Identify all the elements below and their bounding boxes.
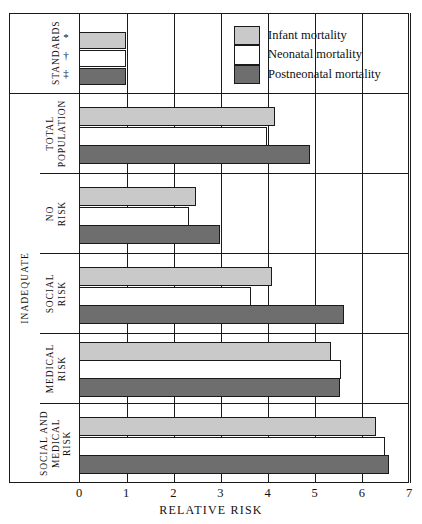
x-tick-label-4: 4 [258,486,278,501]
category-label-medical-risk-text: MEDICAL RISK [46,343,69,393]
legend-label-neonatal-mortality: Neonatal mortality [268,45,362,64]
axis-group-label-inadequate-text: INADEQUATE [20,252,30,324]
bar-social-medical-risk-neonatal-mortality [79,437,385,456]
standards-marker-dagger: † [56,50,76,61]
x-tick-label-7: 7 [399,486,419,501]
bar-standards-neonatal-mortality [79,50,126,67]
bar-no-risk-infant-mortality [79,187,196,206]
x-tick-label-1: 1 [116,486,136,501]
bar-group-total-population [79,93,409,173]
category-label-total-population-text: TOTAL POPULATION [46,99,69,167]
bar-standards-postneonatal-mortality [79,68,126,85]
bar-medical-risk-infant-mortality [79,342,331,361]
bar-standards-infant-mortality [79,32,126,49]
x-tick-label-3: 3 [210,486,230,501]
legend-label-infant-mortality: Infant mortality [268,26,347,45]
x-tick-label-6: 6 [352,486,372,501]
category-label-social-medical-risk-text: SOCIAL AND MEDICAL RISK [40,410,75,475]
bar-medical-risk-postneonatal-mortality [79,378,340,397]
legend-swatch-postneonatal-mortality [234,65,260,84]
x-tick-label-2: 2 [163,486,183,501]
category-label-social-risk-text: SOCIAL RISK [46,273,69,313]
bar-total-population-neonatal-mortality [79,127,267,146]
bar-group-medical-risk [79,333,409,413]
bar-social-medical-risk-infant-mortality [79,417,376,436]
bar-group-social-risk [79,253,409,333]
x-tick-label-0: 0 [69,486,89,501]
legend-swatch-infant-mortality [234,26,260,45]
gridline-7 [410,13,411,483]
bar-no-risk-postneonatal-mortality [79,225,220,244]
bar-no-risk-neonatal-mortality [79,207,189,226]
bar-social-medical-risk-postneonatal-mortality [79,455,389,474]
bar-total-population-infant-mortality [79,107,275,126]
axis-group-label-inadequate: INADEQUATE [9,93,41,483]
legend-label-postneonatal-mortality: Postneonatal mortality [268,65,381,84]
x-axis-title: RELATIVE RISK [0,503,422,518]
bar-medical-risk-neonatal-mortality [79,360,341,379]
bar-group-social-medical-risk [79,403,409,483]
bar-social-risk-neonatal-mortality [79,287,251,306]
bar-social-risk-infant-mortality [79,267,272,286]
bar-group-no-risk [79,173,409,253]
category-label-no-risk-text: NO RISK [46,200,69,225]
legend-swatches [234,26,260,84]
x-tick-label-5: 5 [305,486,325,501]
standards-marker-ddagger: ‡ [56,68,76,79]
bar-total-population-postneonatal-mortality [79,145,310,164]
bar-social-risk-postneonatal-mortality [79,305,344,324]
chart-root: STANDARDS TOTAL POPULATION NO RISK SOCIA… [0,0,422,524]
standards-marker-star: * [56,32,76,43]
legend-swatch-neonatal-mortality [234,45,260,64]
